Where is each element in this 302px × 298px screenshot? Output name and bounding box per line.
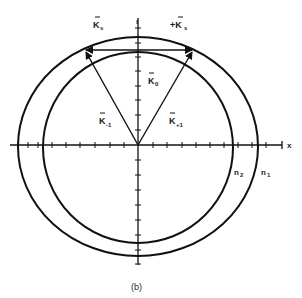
svg-text:K: K [93, 20, 100, 30]
label-k-s-left: K s [93, 17, 104, 31]
k-minus1-vector [86, 52, 138, 145]
label-k-0: K 0 [148, 73, 159, 87]
x-axis [10, 141, 282, 149]
svg-text:K: K [148, 76, 155, 86]
label-n2: n 2 [234, 168, 244, 178]
label-n1: n 1 [261, 168, 271, 178]
svg-text:-1: -1 [106, 122, 112, 128]
svg-text:n: n [234, 168, 239, 177]
svg-text:1: 1 [267, 172, 271, 178]
label-k-s-right: +K s [170, 17, 188, 31]
svg-text:+K: +K [170, 20, 182, 30]
k-plus1-vector [138, 52, 192, 145]
svg-text:0: 0 [155, 81, 159, 87]
y-axis-label: ı [136, 17, 138, 26]
svg-text:n: n [261, 168, 266, 177]
svg-text:2: 2 [240, 172, 244, 178]
svg-text:K: K [99, 116, 106, 126]
figure-caption: (b) [131, 282, 142, 292]
svg-text:+1: +1 [176, 122, 184, 128]
svg-text:K: K [169, 116, 176, 126]
label-k-plus1: K +1 [169, 113, 184, 128]
svg-text:s: s [100, 25, 104, 31]
svg-text:s: s [184, 25, 188, 31]
wavevector-diagram: x ı K s +K [0, 0, 302, 298]
x-axis-label: x [287, 141, 292, 150]
label-k-minus1: K -1 [99, 113, 112, 128]
